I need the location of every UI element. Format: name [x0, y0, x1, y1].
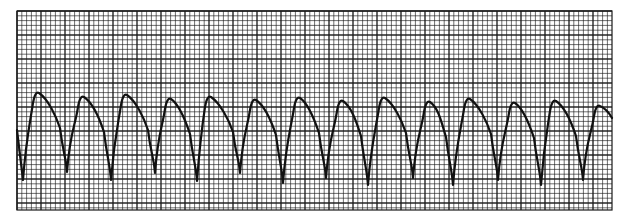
ecg-strip: ECG rhythm strip [0, 0, 626, 219]
